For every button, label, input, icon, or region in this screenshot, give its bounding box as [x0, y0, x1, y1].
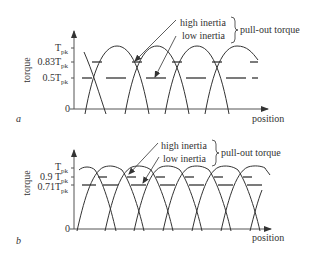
high-inertia-arrow: [129, 143, 158, 174]
tick-label-0-83tpk: 0.83Tpk: [37, 56, 68, 70]
brace: [231, 17, 238, 43]
annotation-low-inertia: low inertia: [163, 153, 207, 164]
annotation-high-inertia: high inertia: [180, 17, 226, 28]
panel-b: Tpk 0.9 Tpk 0.71Tpk 0 torque position b: [16, 140, 284, 246]
annotation-low-inertia: low inertia: [182, 30, 226, 41]
torque-position-diagram: Tpk 0.83Tpk 0.5Tpk 0 torque position a: [0, 0, 317, 255]
panel-label-a: a: [16, 113, 21, 124]
panel-a: Tpk 0.83Tpk 0.5Tpk 0 torque position a: [16, 17, 300, 124]
tick-label-zero: 0: [65, 223, 70, 234]
x-axis-label: position: [252, 232, 284, 243]
tick-label-0-5tpk: 0.5Tpk: [42, 72, 68, 86]
y-axis-label: torque: [21, 170, 32, 196]
x-axis-label: position: [252, 113, 284, 124]
annotation-high-inertia: high inertia: [161, 140, 207, 151]
low-inertia-arrow: [155, 36, 176, 77]
y-axis-label: torque: [21, 57, 32, 83]
torque-curves: [43, 46, 258, 114]
panel-label-b: b: [16, 235, 21, 246]
brace: [212, 140, 219, 166]
annotation-pull-out-torque: pull-out torque: [221, 147, 281, 158]
torque-curves: [77, 166, 270, 231]
tick-label-zero: 0: [65, 103, 70, 114]
annotation-pull-out-torque: pull-out torque: [240, 24, 300, 35]
